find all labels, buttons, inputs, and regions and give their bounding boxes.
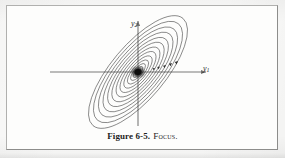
figure-caption: Figure 6-5.Focus. <box>0 131 285 142</box>
figure-caption-title: Focus. <box>153 131 178 141</box>
axis-label-y1: y1 <box>203 65 210 73</box>
scan-edge-shadow <box>0 153 285 158</box>
phase-portrait-plot: y2 y1 <box>6 5 278 150</box>
flow-arrowheads-group <box>152 60 179 71</box>
axis-label-y2: y2 <box>131 20 138 28</box>
equilibrium-core <box>135 69 142 75</box>
figure-page: y2 y1 Figure 6-5.Focus. <box>0 0 285 158</box>
flow-arrowhead <box>157 65 161 69</box>
phase-portrait-svg <box>6 5 278 150</box>
equilibrium-point <box>130 65 146 79</box>
figure-caption-number: Figure 6-5. <box>107 131 150 141</box>
